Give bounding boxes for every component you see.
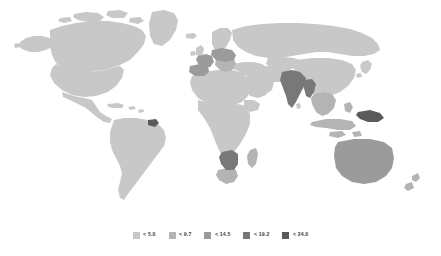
legend-label-4: < 24.0 <box>293 232 308 237</box>
region-new-zealand[interactable] <box>404 173 420 191</box>
region-india[interactable] <box>280 70 306 108</box>
choropleth-figure: < 5.0 < 9.7 < 14.5 < 19.2 < 24.0 <box>0 0 441 256</box>
region-southeast-asia[interactable] <box>311 92 336 116</box>
region-russia[interactable] <box>232 23 380 58</box>
region-papua-new-guinea[interactable] <box>356 110 384 122</box>
legend-swatch-4 <box>282 232 289 239</box>
legend-label-1: < 9.7 <box>179 232 191 237</box>
map-legend: < 5.0 < 9.7 < 14.5 < 19.2 < 24.0 <box>0 226 441 244</box>
legend-item-3[interactable]: < 19.2 <box>243 232 269 239</box>
legend-swatch-2 <box>204 232 211 239</box>
region-south-america[interactable] <box>110 118 166 200</box>
region-iceland[interactable] <box>186 33 197 39</box>
legend-item-1[interactable]: < 9.7 <box>169 232 192 239</box>
region-caribbean[interactable] <box>107 103 144 113</box>
legend-label-2: < 14.5 <box>215 232 230 237</box>
region-madagascar[interactable] <box>247 148 258 168</box>
region-canada[interactable] <box>50 21 146 72</box>
legend-item-0[interactable]: < 5.0 <box>133 232 156 239</box>
world-map[interactable] <box>0 0 441 215</box>
region-south-africa[interactable] <box>216 168 238 184</box>
legend-item-2[interactable]: < 14.5 <box>204 232 230 239</box>
region-greenland[interactable] <box>149 10 178 46</box>
region-alaska[interactable] <box>14 36 54 52</box>
region-japan[interactable] <box>356 60 372 78</box>
legend-label-0: < 5.0 <box>143 232 155 237</box>
legend-item-4[interactable]: < 24.0 <box>282 232 308 239</box>
region-central-europe[interactable] <box>211 48 236 62</box>
region-australia[interactable] <box>334 139 394 184</box>
legend-swatch-0 <box>133 232 140 239</box>
region-botswana-zimbabwe[interactable] <box>219 150 238 170</box>
region-iberia[interactable] <box>189 64 209 76</box>
legend-swatch-1 <box>169 232 176 239</box>
region-sri-lanka[interactable] <box>296 103 301 109</box>
region-indonesia[interactable] <box>310 119 362 138</box>
region-philippines[interactable] <box>344 102 353 113</box>
legend-label-3: < 19.2 <box>254 232 269 237</box>
legend-swatch-3 <box>243 232 250 239</box>
region-central-africa[interactable] <box>198 100 250 158</box>
